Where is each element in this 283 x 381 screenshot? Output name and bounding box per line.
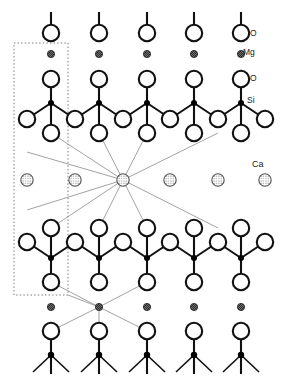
row-apical-o-top xyxy=(51,12,241,25)
atoms-si-upper xyxy=(48,100,244,106)
atoms-o-apical-upper xyxy=(43,71,249,87)
atoms-ca-interlayer xyxy=(21,174,271,186)
atoms-o-bottom xyxy=(43,323,249,339)
legend-label-mg: Mg xyxy=(243,48,255,57)
legend-label-ca: Ca xyxy=(252,160,264,169)
atoms-si-lower xyxy=(48,255,244,261)
structure-diagram xyxy=(0,0,283,381)
figure-canvas: O Mg O Si Ca xyxy=(0,0,283,381)
atoms-o-top xyxy=(43,25,249,41)
legend-label-si: Si xyxy=(247,96,255,105)
legend-label-o-top: O xyxy=(250,29,257,38)
atoms-mg-lower xyxy=(47,303,244,310)
atoms-o-apical-lower xyxy=(43,274,249,290)
legend-label-o-mid: O xyxy=(250,74,257,83)
atoms-mg-upper xyxy=(47,50,244,57)
atoms-si-bottom xyxy=(48,352,244,358)
